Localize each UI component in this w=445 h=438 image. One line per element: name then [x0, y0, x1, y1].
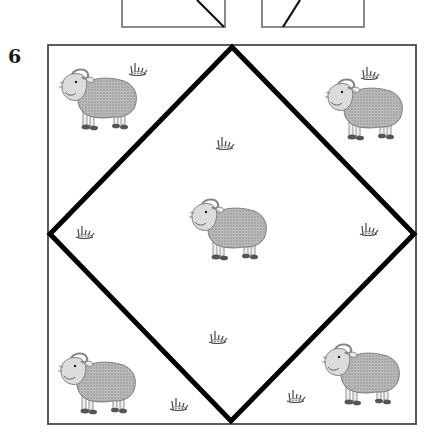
exercise-figure: 6	[0, 0, 445, 438]
sheep-center	[189, 200, 266, 261]
grass-inside-top	[216, 137, 234, 150]
grass-inside-left	[76, 226, 94, 239]
sheep-bottom-right	[322, 345, 399, 406]
grass-inside-right	[360, 223, 378, 236]
grass-bottom-left	[170, 398, 188, 411]
grass-bottom-right	[287, 390, 305, 403]
top-box-left	[122, 0, 225, 27]
sheep-top-left	[59, 70, 136, 131]
grass-top-right	[361, 67, 379, 80]
top-box-right	[262, 0, 364, 27]
grass-top-left	[129, 63, 147, 76]
sheep-bottom-left	[58, 354, 135, 415]
grass-inside-bottom	[209, 331, 227, 344]
sheep-top-right	[325, 80, 402, 141]
